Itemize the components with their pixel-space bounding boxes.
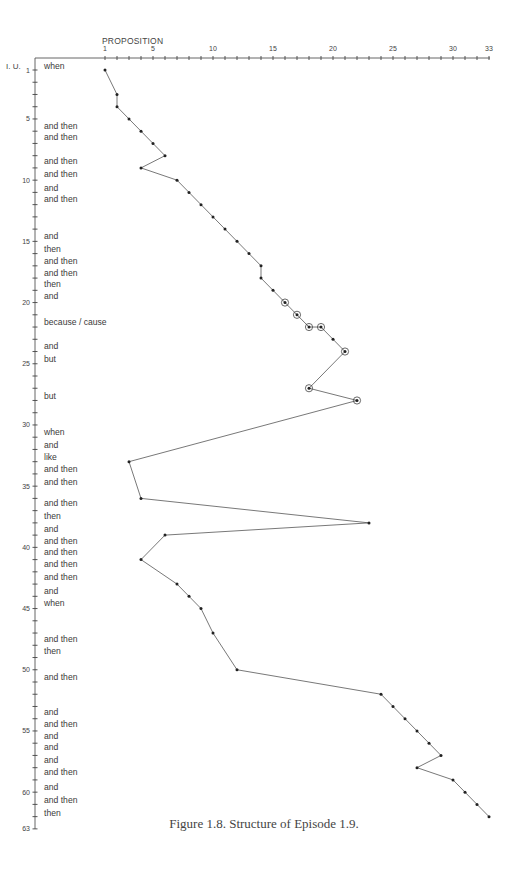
connective-label: and then bbox=[44, 767, 78, 777]
data-point-marker bbox=[140, 558, 143, 561]
data-point-marker bbox=[236, 668, 239, 671]
series-line bbox=[105, 70, 489, 817]
data-point-marker bbox=[200, 203, 203, 206]
data-point-marker bbox=[296, 313, 299, 316]
connective-label: like bbox=[44, 452, 57, 462]
data-point-marker bbox=[212, 632, 215, 635]
connective-label: and then bbox=[44, 477, 78, 487]
data-point-marker bbox=[140, 497, 143, 500]
y-tick-label: 55 bbox=[22, 727, 30, 734]
connective-label: when bbox=[43, 61, 65, 71]
connective-label: and then bbox=[44, 268, 78, 278]
data-point-marker bbox=[140, 130, 143, 133]
data-point-marker bbox=[368, 521, 371, 524]
connective-label: and then bbox=[44, 572, 78, 582]
data-point-marker bbox=[236, 240, 239, 243]
data-point-marker bbox=[188, 191, 191, 194]
connective-label: and then bbox=[44, 795, 78, 805]
connective-label: and bbox=[44, 341, 59, 351]
connective-label: and bbox=[44, 291, 59, 301]
connective-label: and then bbox=[44, 156, 78, 166]
data-point-marker bbox=[176, 583, 179, 586]
data-point-marker bbox=[116, 105, 119, 108]
connective-label: and then bbox=[44, 634, 78, 644]
connective-label: but bbox=[44, 354, 57, 364]
connective-label: and bbox=[44, 440, 59, 450]
connective-label: and then bbox=[44, 498, 78, 508]
connective-label: and bbox=[44, 231, 59, 241]
connective-label: then bbox=[44, 279, 61, 289]
connective-label: and bbox=[44, 742, 59, 752]
connective-label: and then bbox=[44, 672, 78, 682]
data-point-marker bbox=[104, 69, 107, 72]
data-point-marker bbox=[248, 252, 251, 255]
data-point-marker bbox=[116, 93, 119, 96]
data-point-marker bbox=[464, 791, 467, 794]
data-point-marker bbox=[416, 729, 419, 732]
data-point-marker bbox=[308, 326, 311, 329]
data-point-marker bbox=[440, 754, 443, 757]
x-tick-label: 1 bbox=[103, 45, 107, 52]
connective-label: when bbox=[43, 598, 65, 608]
connective-label: and then bbox=[44, 169, 78, 179]
connective-label: and bbox=[44, 731, 59, 741]
connective-label: and bbox=[44, 755, 59, 765]
connective-label: and then bbox=[44, 547, 78, 557]
connective-label: but bbox=[44, 391, 57, 401]
connective-labels: whenand thenand thenand thenand thenanda… bbox=[43, 61, 107, 818]
y-tick-label: 20 bbox=[22, 299, 30, 306]
x-axis: 15101520253033 bbox=[35, 45, 493, 60]
data-point-marker bbox=[344, 350, 347, 353]
x-tick-label: 15 bbox=[269, 45, 277, 52]
data-point-marker bbox=[260, 264, 263, 267]
data-point-marker bbox=[200, 607, 203, 610]
data-point-marker bbox=[152, 142, 155, 145]
figure-caption: Figure 1.8. Structure of Episode 1.9. bbox=[0, 816, 516, 832]
data-point-marker bbox=[392, 705, 395, 708]
data-point-marker bbox=[452, 778, 455, 781]
connective-label: then bbox=[44, 511, 61, 521]
data-point-marker bbox=[260, 277, 263, 280]
connective-label: and then bbox=[44, 464, 78, 474]
x-tick-label: 25 bbox=[389, 45, 397, 52]
connective-label: and bbox=[44, 782, 59, 792]
connective-label: and bbox=[44, 707, 59, 717]
data-point-marker bbox=[320, 326, 323, 329]
y-tick-label: 35 bbox=[22, 483, 30, 490]
connective-label: then bbox=[44, 244, 61, 254]
connective-label: and bbox=[44, 183, 59, 193]
x-tick-label: 5 bbox=[151, 45, 155, 52]
data-point-marker bbox=[176, 179, 179, 182]
x-tick-label: 30 bbox=[449, 45, 457, 52]
data-point-marker bbox=[140, 166, 143, 169]
y-tick-label: 50 bbox=[22, 666, 30, 673]
x-tick-label: 20 bbox=[329, 45, 337, 52]
connective-label: and then bbox=[44, 719, 78, 729]
structure-chart: PROPOSITION I. U. 15101520253033 1510152… bbox=[0, 0, 516, 879]
y-axis: 15101520253035404550556063 bbox=[22, 58, 37, 832]
connective-label: and bbox=[44, 586, 59, 596]
y-tick-label: 5 bbox=[26, 115, 30, 122]
data-point-marker bbox=[476, 803, 479, 806]
data-point-marker bbox=[212, 215, 215, 218]
connective-label: and bbox=[44, 524, 59, 534]
connective-label: and then bbox=[44, 121, 78, 131]
data-point-marker bbox=[164, 154, 167, 157]
data-point-marker bbox=[428, 742, 431, 745]
x-tick-label: 33 bbox=[485, 45, 493, 52]
data-point-marker bbox=[224, 228, 227, 231]
data-point-marker bbox=[128, 117, 131, 120]
data-point-marker bbox=[272, 289, 275, 292]
data-point-marker bbox=[284, 301, 287, 304]
y-tick-label: 60 bbox=[22, 789, 30, 796]
episode-structure-figure: PROPOSITION I. U. 15101520253033 1510152… bbox=[0, 0, 516, 879]
x-tick-label: 10 bbox=[209, 45, 217, 52]
y-tick-label: 30 bbox=[22, 421, 30, 428]
connective-label: and then bbox=[44, 194, 78, 204]
connective-label: because / cause bbox=[44, 317, 107, 327]
data-point-marker bbox=[188, 595, 191, 598]
data-point-marker bbox=[356, 399, 359, 402]
data-series bbox=[104, 69, 491, 819]
y-tick-label: 45 bbox=[22, 605, 30, 612]
data-point-marker bbox=[128, 460, 131, 463]
